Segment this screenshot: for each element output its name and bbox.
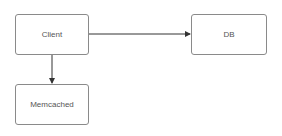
node-client[interactable]: Client bbox=[15, 14, 89, 55]
node-memcached-label: Memcached bbox=[30, 100, 74, 109]
node-db[interactable]: DB bbox=[191, 14, 267, 55]
node-client-label: Client bbox=[42, 30, 62, 39]
node-memcached[interactable]: Memcached bbox=[15, 84, 89, 125]
node-db-label: DB bbox=[223, 30, 234, 39]
